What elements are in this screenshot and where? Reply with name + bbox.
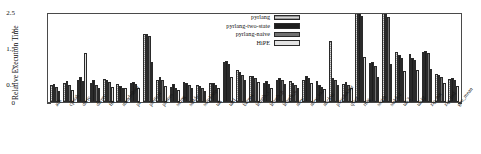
y-axis-tick-label: 0 [0, 100, 15, 107]
legend-item: HiPE [150, 40, 300, 47]
bar-group [63, 14, 73, 102]
y-axis-tick-label: 2.5 [0, 10, 15, 17]
legend-label: pyrlang [251, 14, 270, 20]
legend-item: pyrlang [150, 14, 300, 21]
legend-swatch-hipe [274, 40, 300, 46]
y-axis-tick-label: 1.5 [0, 46, 15, 53]
bar-group [369, 14, 379, 102]
bar-group [302, 14, 312, 102]
chart-figure: Relative Execution Time 00.511.522.5 pyr… [0, 0, 481, 154]
legend-item: pyrlang-two-state [150, 23, 300, 30]
legend-swatch-pyrlang-two-state [274, 23, 300, 29]
legend-label: pyrlang-two-state [226, 23, 270, 29]
x-axis-tick-label: tak [215, 99, 223, 108]
legend-item: pyrlang-naive [150, 31, 300, 38]
y-axis-tick-label: 0.5 [0, 82, 15, 89]
bar-group [103, 14, 113, 102]
bar-group [77, 14, 87, 102]
legend-swatch-pyrlang-naive [274, 32, 300, 38]
y-axis-tick-label: 2 [0, 28, 15, 35]
bar-group [90, 14, 100, 102]
bar-group [395, 14, 405, 102]
bar-group [409, 14, 419, 102]
bar-group [382, 14, 392, 102]
x-axis-tick-labels: ackcpstakderivdivrecfibmandelbrotpiprett… [47, 104, 462, 154]
legend-swatch-pyrlang [274, 15, 300, 21]
y-axis-tick-label: 1 [0, 64, 15, 71]
bar-group [448, 14, 458, 102]
bar-group [50, 14, 60, 102]
legend-label: pyrlang-naive [236, 31, 270, 37]
bar-group [355, 14, 365, 102]
legend-label: HiPE [257, 40, 270, 46]
bar-group [422, 14, 432, 102]
chart-legend: pyrlang pyrlang-two-state pyrlang-naive … [150, 14, 300, 48]
bar-group [116, 14, 126, 102]
bar [363, 57, 366, 102]
bar-group [435, 14, 445, 102]
bar-group [329, 14, 339, 102]
